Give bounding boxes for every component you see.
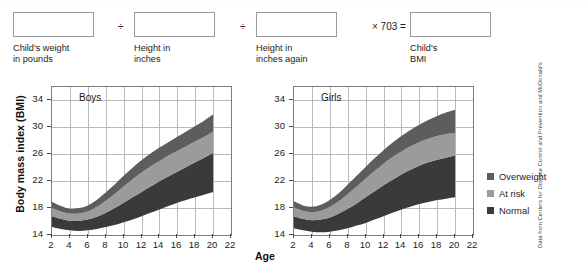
legend-swatch-normal (487, 207, 494, 214)
x-tick-label: 10 (355, 240, 375, 250)
legend-swatch-overweight (487, 173, 494, 180)
x-tick-mark (347, 234, 348, 238)
x-tick-mark (230, 234, 231, 238)
x-tick-mark (293, 234, 294, 238)
source-attribution-note: Data from Centers for Disease Control an… (537, 45, 543, 265)
y-tick-label: 22 (259, 175, 285, 185)
x-tick-label: 22 (220, 240, 240, 250)
y-tick-mark (47, 99, 51, 100)
childs-weight-caption: Child's weight in pounds (13, 43, 103, 65)
y-tick-label: 26 (259, 148, 285, 158)
x-tick-mark (194, 234, 195, 238)
x-tick-mark (454, 234, 455, 238)
y-tick-label: 18 (259, 202, 285, 212)
x-tick-mark (472, 234, 473, 238)
y-tick-mark (47, 126, 51, 127)
x-tick-label: 6 (319, 240, 339, 250)
y-tick-mark (289, 99, 293, 100)
y-tick-label: 14 (259, 229, 285, 239)
y-tick-mark (47, 180, 51, 181)
y-tick-mark (289, 126, 293, 127)
y-tick-mark (47, 153, 51, 154)
x-tick-mark (141, 234, 142, 238)
x-tick-label: 18 (426, 240, 446, 250)
x-tick-mark (418, 234, 419, 238)
x-tick-mark (123, 234, 124, 238)
x-tick-mark (158, 234, 159, 238)
x-tick-label: 22 (462, 240, 482, 250)
height-inches-again-caption: Height in inches again (256, 43, 351, 65)
bmi-percentile-bands (52, 87, 231, 235)
x-tick-mark (51, 234, 52, 238)
y-tick-mark (289, 207, 293, 208)
x-tick-label: 8 (337, 240, 357, 250)
x-tick-label: 20 (202, 240, 222, 250)
childs-weight-field[interactable] (13, 12, 94, 37)
boys-plot-area (51, 86, 232, 236)
bmi-percentile-bands (294, 87, 473, 235)
bmi-formula-strip: Child's weight in pounds ÷ Height in inc… (0, 0, 586, 70)
x-tick-label: 18 (184, 240, 204, 250)
y-tick-mark (47, 207, 51, 208)
x-tick-mark (87, 234, 88, 238)
y-tick-label: 14 (17, 229, 43, 239)
y-tick-label: 22 (17, 175, 43, 185)
y-tick-label: 26 (17, 148, 43, 158)
height-inches-field[interactable] (134, 12, 215, 37)
x-tick-label: 14 (148, 240, 168, 250)
x-tick-mark (329, 234, 330, 238)
height-inches-again-field[interactable] (256, 12, 337, 37)
x-tick-label: 2 (41, 240, 61, 250)
x-tick-label: 20 (444, 240, 464, 250)
y-tick-label: 30 (17, 121, 43, 131)
x-tick-label: 10 (113, 240, 133, 250)
x-tick-label: 4 (59, 240, 79, 250)
x-tick-mark (400, 234, 401, 238)
x-tick-label: 16 (408, 240, 428, 250)
divide-operator-1: ÷ (118, 22, 124, 32)
x-tick-label: 14 (390, 240, 410, 250)
x-tick-mark (436, 234, 437, 238)
x-tick-mark (176, 234, 177, 238)
legend-swatch-at-risk (487, 190, 494, 197)
x-tick-label: 4 (301, 240, 321, 250)
divide-operator-2: ÷ (240, 22, 246, 32)
boys-panel-title: Boys (79, 92, 101, 103)
x-tick-mark (212, 234, 213, 238)
x-tick-label: 8 (95, 240, 115, 250)
x-tick-mark (311, 234, 312, 238)
gridline-vertical (473, 87, 474, 235)
x-tick-label: 16 (166, 240, 186, 250)
girls-plot-area (293, 86, 474, 236)
legend-label-at-risk: At risk (499, 189, 525, 199)
x-tick-mark (383, 234, 384, 238)
gridline-vertical (231, 87, 232, 235)
legend-label-normal: Normal (499, 206, 529, 216)
y-tick-mark (289, 153, 293, 154)
childs-bmi-caption: Child's BMI (410, 43, 500, 65)
x-tick-label: 2 (283, 240, 303, 250)
girls-panel-title: Girls (321, 92, 342, 103)
multiply-703-equals-operator: × 703 = (372, 22, 406, 32)
y-tick-label: 34 (259, 94, 285, 104)
y-tick-mark (289, 180, 293, 181)
x-tick-mark (365, 234, 366, 238)
y-tick-label: 34 (17, 94, 43, 104)
x-tick-label: 6 (77, 240, 97, 250)
girls-bmi-chart: Age 141822263034246810121416182022Girls (255, 78, 485, 258)
x-tick-mark (105, 234, 106, 238)
y-tick-label: 30 (259, 121, 285, 131)
childs-bmi-field[interactable] (410, 12, 491, 37)
y-tick-label: 18 (17, 202, 43, 212)
height-inches-caption: Height in inches (134, 43, 224, 65)
x-axis-title: Age (255, 250, 275, 262)
x-tick-mark (69, 234, 70, 238)
boys-bmi-chart: Body mass index (BMI) 141822263034246810… (0, 78, 250, 258)
